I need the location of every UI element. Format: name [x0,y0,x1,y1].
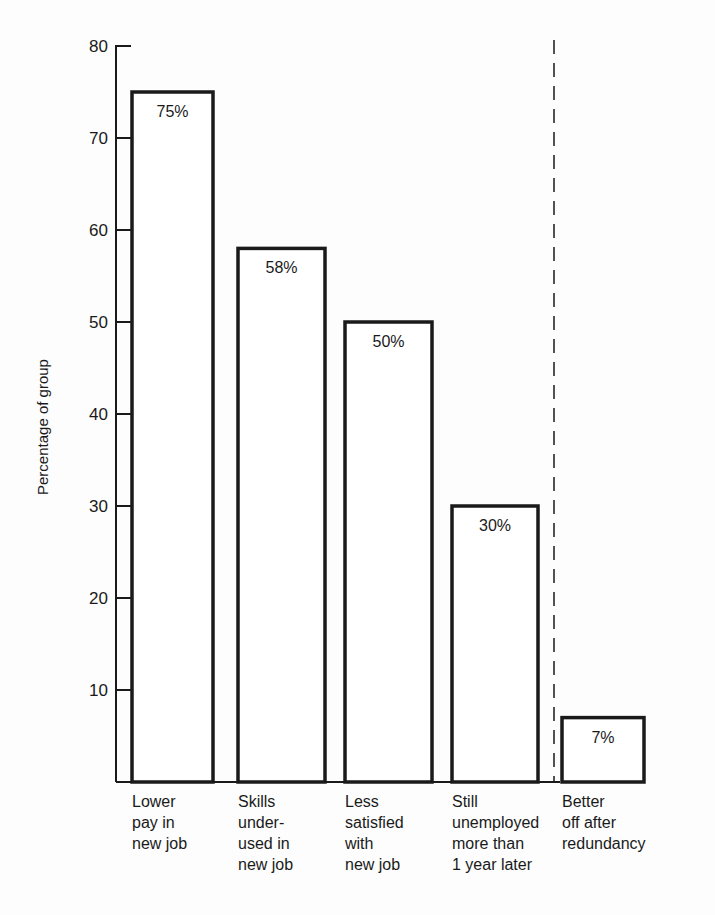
x-category-label: Lower pay in new job [132,791,187,854]
bar [452,506,538,782]
bar-value-label: 30% [479,517,511,534]
bar [345,322,432,782]
y-tick-label: 60 [89,221,108,240]
x-category-label: Less satisfied with new job [345,791,404,875]
bar [562,718,644,782]
y-tick-label: 50 [89,313,108,332]
bars: 75%58%50%30%7% [132,92,644,782]
bar-value-label: 50% [372,333,404,350]
y-tick-label: 30 [89,497,108,516]
bar-chart: 1020304050607080 75%58%50%30%7% [0,0,715,915]
bar [238,248,325,782]
x-category-label: Still unemployed more than 1 year later [452,791,539,875]
x-category-label: Better off after redundancy [562,791,646,854]
y-tick-label: 80 [89,37,108,56]
y-tick-label: 10 [89,681,108,700]
bar-value-label: 58% [265,259,297,276]
y-axis-label: Percentage of group [34,359,51,495]
y-tick-label: 20 [89,589,108,608]
bar [132,92,213,782]
y-tick-label: 40 [89,405,108,424]
bar-value-label: 7% [591,729,614,746]
x-category-label: Skills under- used in new job [238,791,293,875]
y-tick-label: 70 [89,129,108,148]
bar-value-label: 75% [156,103,188,120]
y-ticks: 1020304050607080 [89,37,131,700]
